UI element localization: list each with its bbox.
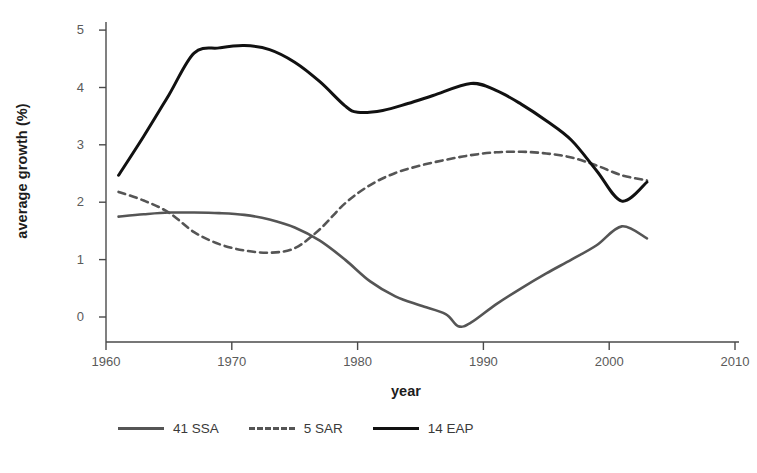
line-chart-plot xyxy=(0,0,757,473)
legend-swatch-icon xyxy=(118,422,164,434)
legend-label: 41 SSA xyxy=(173,421,219,436)
y-axis-ticks xyxy=(99,30,106,317)
y-tick-label-5: 5 xyxy=(58,22,84,37)
legend-label: 5 SAR xyxy=(304,421,343,436)
series-line-41-ssa xyxy=(119,212,647,326)
y-tick-label-4: 4 xyxy=(58,80,84,95)
x-tick-label-1990: 1990 xyxy=(453,354,513,369)
y-axis-title: average growth (%) xyxy=(14,51,30,291)
chart-legend: 41 SSA5 SAR14 EAP xyxy=(118,417,504,439)
x-tick-label-2000: 2000 xyxy=(579,354,639,369)
x-axis-ticks xyxy=(106,342,735,350)
y-tick-label-1: 1 xyxy=(58,252,84,267)
y-tick-label-3: 3 xyxy=(58,137,84,152)
y-tick-label-2: 2 xyxy=(58,194,84,209)
legend-item-14-eap[interactable]: 14 EAP xyxy=(373,421,474,436)
data-series-layer xyxy=(119,46,647,327)
legend-swatch-icon xyxy=(373,422,419,434)
x-tick-label-1970: 1970 xyxy=(202,354,262,369)
chart-figure: 5 4 3 2 1 0 1960 1970 1980 1990 2000 201… xyxy=(0,0,757,473)
x-tick-label-1960: 1960 xyxy=(76,354,136,369)
legend-item-41-ssa[interactable]: 41 SSA xyxy=(118,421,219,436)
legend-swatch-icon xyxy=(249,422,295,434)
series-line-5-sar xyxy=(119,152,647,253)
y-tick-label-0: 0 xyxy=(58,309,84,324)
x-axis-title: year xyxy=(106,383,706,399)
x-tick-label-1980: 1980 xyxy=(328,354,388,369)
legend-label: 14 EAP xyxy=(428,421,474,436)
x-tick-label-2010: 2010 xyxy=(705,354,757,369)
axis-spines xyxy=(106,22,739,342)
legend-item-5-sar[interactable]: 5 SAR xyxy=(249,421,343,436)
